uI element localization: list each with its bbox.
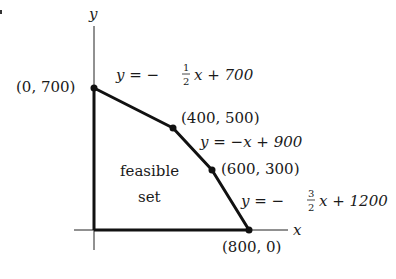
svg-text:y = −: y = − bbox=[115, 66, 159, 84]
vertex-label-400-500: (400, 500) bbox=[181, 109, 260, 127]
vertex-400-500 bbox=[170, 125, 177, 132]
svg-text:3: 3 bbox=[308, 188, 314, 199]
svg-text:2: 2 bbox=[183, 76, 189, 87]
region-label-line1: feasible bbox=[120, 162, 179, 180]
feasible-set-diagram: x y (0, 700) (400, 500) (600, 300) (800,… bbox=[0, 0, 396, 279]
svg-text:y = −: y = − bbox=[240, 192, 284, 210]
region-label-line2: set bbox=[138, 188, 161, 206]
constraint-label-3: y = − 3 2 x + 1200 bbox=[240, 188, 388, 213]
y-axis-label: y bbox=[88, 5, 98, 23]
x-axis-label: x bbox=[293, 221, 302, 239]
constraint-label-2: y = −x + 900 bbox=[199, 133, 303, 151]
svg-text:x + 1200: x + 1200 bbox=[319, 192, 388, 210]
vertex-label-0-700: (0, 700) bbox=[16, 78, 75, 96]
vertex-800-0 bbox=[246, 227, 253, 234]
constraint-label-1: y = − 1 2 x + 700 bbox=[115, 62, 254, 87]
vertex-label-800-0: (800, 0) bbox=[222, 238, 281, 256]
vertex-0-700 bbox=[91, 85, 98, 92]
vertex-label-600-300: (600, 300) bbox=[221, 160, 300, 178]
svg-text:x + 700: x + 700 bbox=[194, 66, 254, 84]
svg-text:2: 2 bbox=[308, 202, 314, 213]
corner-mark bbox=[0, 10, 2, 14]
svg-text:1: 1 bbox=[183, 62, 189, 73]
vertex-600-300 bbox=[209, 167, 216, 174]
